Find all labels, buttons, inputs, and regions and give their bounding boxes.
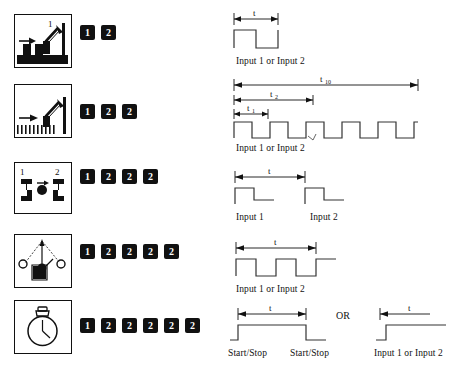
dim-sub-t1: 1 [252,108,255,114]
caption-row-3-right: Input 2 [310,212,338,222]
diagram-sheet: 1 1 2 t Input 1 or Input 2 [0,0,457,365]
badge: 1 [80,318,95,333]
caption-row-5-right: Input 1 or Input 2 [374,348,443,358]
badge: 2 [164,244,179,259]
badge: 1 [80,104,95,119]
badge: 2 [101,104,116,119]
dim-label-t2: t [270,89,273,99]
part-on-conveyor-sensor-icon: 1 [15,15,70,66]
badge: 2 [122,169,137,184]
waveform-row-5-right: t [374,302,457,346]
pendulum-swing-sensor-icon [15,235,70,286]
waveform-row-2: t 10 t 2 t 1 [228,74,450,142]
badge: 2 [122,244,137,259]
badge-group-row-5: 1 2 2 2 2 2 [80,318,200,333]
badge: 1 [80,25,95,40]
icon-box-row-5 [14,300,72,354]
badge: 2 [101,25,116,40]
badge-group-row-3: 1 2 2 2 [80,169,158,184]
dim-label-t: t [274,237,277,247]
icon-number-left: 1 [20,167,25,177]
dim-label-t: t [269,303,272,313]
icon-box-row-3: 1 2 [14,162,72,214]
or-label: OR [336,310,350,321]
stopwatch-icon [15,301,70,352]
dim-label-t: t [408,303,411,313]
waveform-row-3: t [228,166,448,211]
badge: 2 [101,318,116,333]
icon-box-row-2 [14,84,72,138]
badge: 1 [80,244,95,259]
dim-sub-t2: 2 [275,94,278,100]
two-sensor-gate-icon: 1 2 [15,163,70,212]
icon-box-row-4 [14,234,72,288]
badge: 2 [185,318,200,333]
badge: 2 [143,169,158,184]
badge: 2 [164,318,179,333]
icon-number-right: 2 [55,167,60,177]
dim-label-t: t [253,8,256,18]
dim-label-t10: t [320,74,323,84]
badge-group-row-1: 1 2 [80,25,116,40]
badge: 2 [101,169,116,184]
dim-label-t1: t [247,103,250,113]
badge-group-row-4: 1 2 2 2 2 [80,244,179,259]
caption-row-4: Input 1 or Input 2 [236,284,305,294]
icon-box-row-1: 1 [14,14,72,68]
caption-row-1: Input 1 or Input 2 [236,56,305,66]
badge: 2 [122,104,137,119]
badge: 2 [143,318,158,333]
waveform-row-1: t [228,8,448,56]
icon-number-1: 1 [48,19,53,29]
caption-row-5-stop: Start/Stop [290,348,329,358]
badge: 1 [80,169,95,184]
badge-group-row-2: 1 2 2 [80,104,137,119]
dim-label-t: t [268,166,271,176]
badge: 2 [101,244,116,259]
badge: 2 [143,244,158,259]
caption-row-5-start: Start/Stop [228,348,267,358]
dim-sub-t10: 10 [325,79,331,85]
badge: 2 [122,318,137,333]
waveform-row-5-left: t [228,302,348,346]
caption-row-2: Input 1 or Input 2 [236,143,305,153]
toothed-rack-sensor-icon [15,85,70,136]
waveform-row-4: t [228,236,448,282]
caption-row-3-left: Input 1 [236,212,264,222]
